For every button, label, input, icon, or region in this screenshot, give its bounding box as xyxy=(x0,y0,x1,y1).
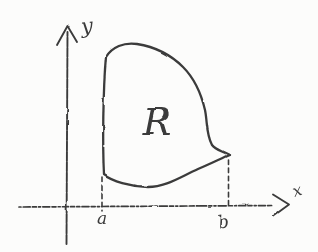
x-axis-label: x xyxy=(290,180,304,201)
tick-label-a: a xyxy=(97,208,107,228)
y-axis-line xyxy=(67,32,68,244)
figure-svg: y x R a b xyxy=(0,0,318,252)
region-label: R xyxy=(142,100,172,144)
tick-label-b: b xyxy=(216,210,230,232)
y-axis-label: y xyxy=(79,13,95,38)
x-axis-arrowhead xyxy=(273,195,289,216)
x-axis-line xyxy=(19,206,273,208)
hand-drawn-figure: y x R a b xyxy=(0,0,318,252)
